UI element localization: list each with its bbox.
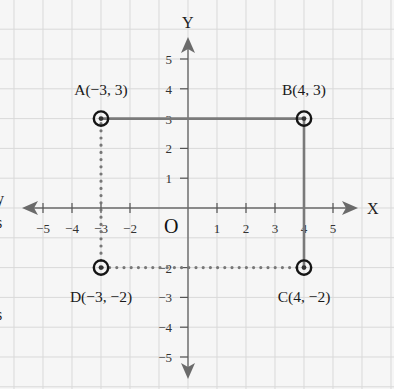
background bbox=[0, 0, 394, 389]
point-marker-dot bbox=[302, 116, 307, 121]
x-axis-label: X bbox=[367, 200, 379, 217]
coordinate-plane: y s s X Y O −5−4−3−21234554321−2−3−4−5 A… bbox=[0, 0, 394, 389]
point-marker-dot bbox=[99, 116, 104, 121]
x-tick-label: −2 bbox=[123, 221, 137, 236]
x-tick-label: −4 bbox=[65, 221, 79, 236]
x-tick-label: 5 bbox=[330, 221, 337, 236]
y-tick-label: −3 bbox=[158, 290, 172, 305]
edge-text-fragment-2: s bbox=[0, 214, 2, 231]
y-tick-label: 4 bbox=[166, 82, 173, 97]
origin-label: O bbox=[164, 215, 178, 237]
x-tick-label: 1 bbox=[214, 221, 221, 236]
x-tick-label: 3 bbox=[272, 221, 279, 236]
y-tick-label: 1 bbox=[166, 171, 173, 186]
y-tick-label: −4 bbox=[158, 320, 172, 335]
x-tick-label: −5 bbox=[36, 221, 50, 236]
point-label-B: B(4, 3) bbox=[282, 81, 326, 99]
point-label-A: A(−3, 3) bbox=[74, 81, 128, 99]
edge-text-fragment-3: s bbox=[0, 306, 2, 323]
y-tick-label: 5 bbox=[166, 52, 173, 67]
point-marker-dot bbox=[302, 265, 307, 270]
point-label-D: D(−3, −2) bbox=[70, 288, 132, 306]
point-label-C: C(4, −2) bbox=[278, 288, 331, 306]
edge-text-fragment-1: y bbox=[0, 190, 4, 208]
point-marker-dot bbox=[99, 265, 104, 270]
y-tick-label: 2 bbox=[166, 141, 173, 156]
x-tick-label: 2 bbox=[243, 221, 250, 236]
y-tick-label: −5 bbox=[158, 350, 172, 365]
y-axis-label: Y bbox=[182, 14, 194, 31]
